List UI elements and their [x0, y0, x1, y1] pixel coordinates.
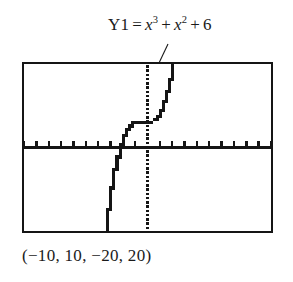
- function-name: Y1: [108, 15, 129, 34]
- calculator-screen: [22, 62, 273, 233]
- y-axis: [146, 65, 149, 229]
- plus-sign-1: +: [158, 15, 174, 34]
- term1-base: x: [145, 15, 153, 34]
- graphing-calculator-figure: Y1=x3+x2+6 (−10, 10, −20, 20): [0, 0, 293, 282]
- plus-sign-2: +: [187, 15, 203, 34]
- equals-sign: =: [129, 15, 145, 34]
- function-label: Y1=x3+x2+6: [108, 16, 212, 33]
- window-caption: (−10, 10, −20, 20): [22, 246, 151, 266]
- term2-base: x: [174, 15, 182, 34]
- constant-term: 6: [203, 15, 212, 34]
- graph-plot-area: [24, 64, 271, 231]
